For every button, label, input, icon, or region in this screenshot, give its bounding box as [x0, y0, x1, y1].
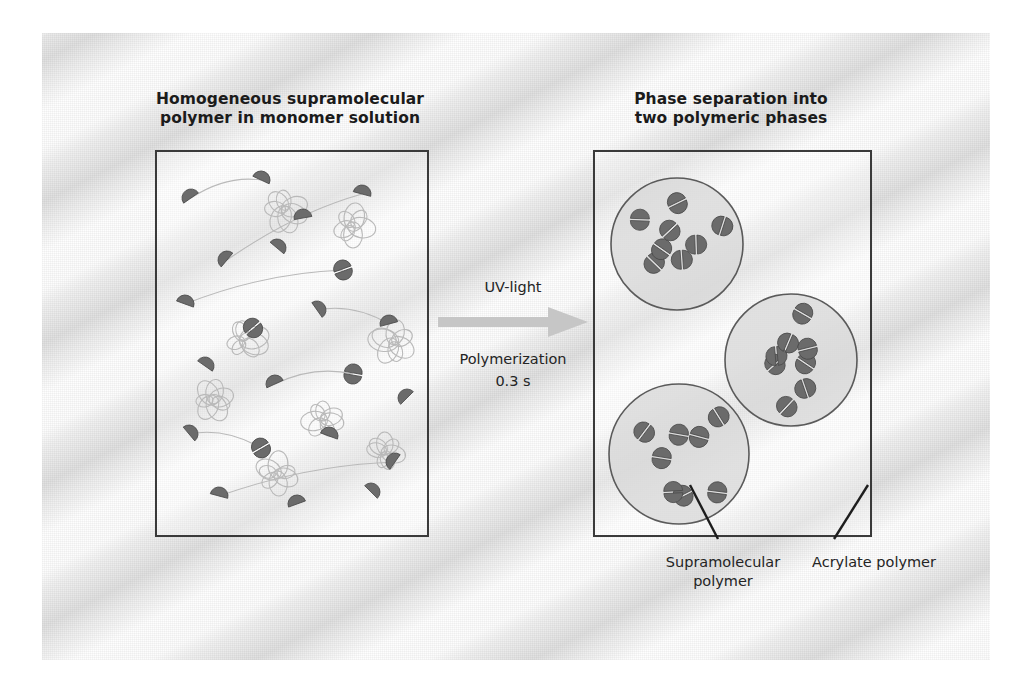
callout-acrylate-polymer: Acrylate polymer [812, 553, 982, 572]
figure-canvas: Homogeneous supramolecular polymer in mo… [42, 33, 990, 660]
callout-supramolecular-polymer: Supramolecular polymer [648, 553, 798, 591]
callout-supramolecular-line2: polymer [648, 572, 798, 591]
leader-line-acrylate [834, 485, 868, 539]
leader-line-supramolecular [690, 485, 718, 539]
callout-supramolecular-line1: Supramolecular [648, 553, 798, 572]
